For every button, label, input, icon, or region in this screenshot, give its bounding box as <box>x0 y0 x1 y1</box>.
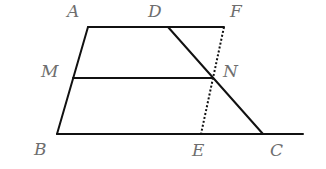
label-B: B <box>33 139 47 159</box>
label-A: A <box>65 1 79 21</box>
segment-FE-dotted <box>201 27 224 134</box>
geometry-diagram: A D F M N B E C <box>0 0 326 169</box>
segment-AB <box>57 27 88 134</box>
segment-DC <box>168 27 263 134</box>
label-E: E <box>191 140 205 160</box>
label-F: F <box>229 1 243 21</box>
label-M: M <box>40 61 59 81</box>
label-D: D <box>147 1 162 21</box>
label-C: C <box>270 140 283 160</box>
label-N: N <box>222 61 239 81</box>
